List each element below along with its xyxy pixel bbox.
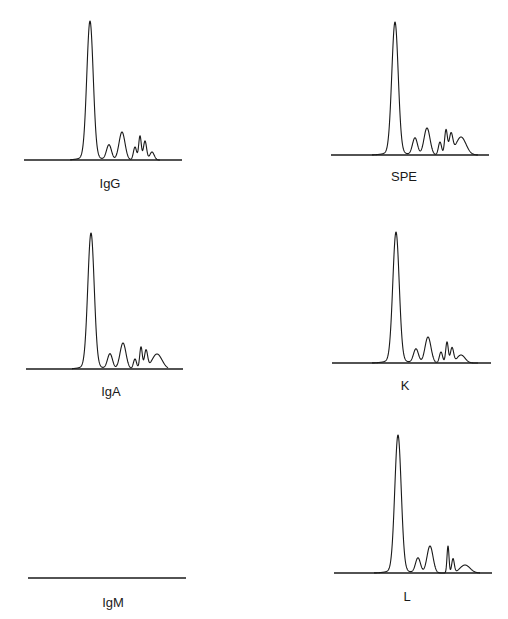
electrophoresis-figure (0, 0, 508, 619)
panel-label-k: K (401, 378, 410, 393)
densitometry-trace (372, 22, 478, 155)
panel-label-igm: IgM (102, 595, 124, 610)
densitometry-trace (372, 232, 478, 363)
panel-k (332, 232, 491, 363)
panel-label-spe: SPE (391, 169, 417, 184)
panel-label-igg: IgG (100, 176, 121, 191)
densitometry-trace (72, 233, 168, 369)
panel-label-iga: IgA (101, 384, 121, 399)
densitometry-trace (70, 21, 160, 160)
panel-l (334, 435, 492, 573)
panel-label-l: L (403, 589, 410, 604)
panel-spe (331, 22, 489, 155)
panel-igg (24, 21, 182, 160)
panel-iga (26, 233, 183, 369)
densitometry-trace (374, 435, 480, 573)
